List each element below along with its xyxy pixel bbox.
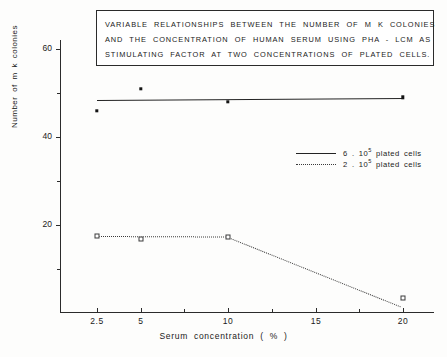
marker-dotted-20 [401, 295, 406, 300]
x-tick-2.5: 2.5 [97, 308, 98, 313]
title-line-1: VARIABLE RELATIONSHIPS BETWEEN THE NUMBE… [105, 17, 426, 32]
legend-label-1: 2 . 105 plated cells [343, 160, 422, 169]
marker-solid-5 [139, 87, 142, 90]
y-tick-40: 40 [56, 137, 61, 138]
marker-dotted-2.5 [95, 234, 100, 239]
marker-solid-20 [401, 96, 404, 99]
legend-label-0: 6 . 105 plated cells [343, 149, 422, 158]
series-solid-line [97, 98, 404, 101]
marker-solid-2.5 [95, 109, 98, 112]
x-tick-5: 5 [141, 308, 142, 313]
x-tick-10: 10 [228, 308, 229, 313]
y-tick-minor-30 [57, 181, 61, 182]
chart-legend: 6 . 105 plated cells 2 . 105 plated cell… [296, 148, 436, 170]
legend-swatch-solid-icon [296, 153, 336, 154]
x-tick-minor-12.5 [272, 309, 273, 313]
y-tick-60: 60 [56, 49, 61, 50]
marker-solid-10 [226, 100, 229, 103]
legend-item-1: 2 . 105 plated cells [296, 159, 436, 170]
y-axis-title: Number of m k colonies [10, 25, 19, 128]
x-tick-minor-7.5 [184, 309, 185, 313]
x-tick-15: 15 [316, 308, 317, 313]
legend-item-0: 6 . 105 plated cells [296, 148, 436, 159]
x-tick-minor-17.5 [359, 309, 360, 313]
x-tick-20: 20 [403, 308, 404, 313]
y-tick-20: 20 [56, 225, 61, 226]
series-dotted-segment-decline [228, 237, 401, 307]
y-axis-line [60, 40, 61, 313]
marker-dotted-5 [139, 237, 144, 242]
x-axis-title: Serum concentration ( % ) [0, 331, 447, 341]
marker-dotted-10 [226, 234, 231, 239]
y-tick-minor-10 [57, 269, 61, 270]
legend-swatch-dotted-icon [296, 164, 336, 165]
y-tick-minor-50 [57, 93, 61, 94]
x-axis-line [60, 312, 434, 313]
series-dotted-segment-flat [97, 236, 228, 238]
chart-page: VARIABLE RELATIONSHIPS BETWEEN THE NUMBE… [0, 0, 447, 357]
plot-area: 60 40 20 2.5 5 10 15 20 [60, 40, 434, 313]
